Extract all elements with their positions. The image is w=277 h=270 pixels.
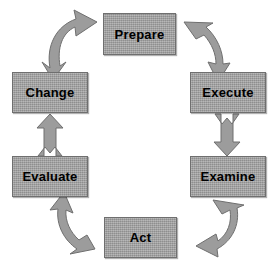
node-prepare-label: Prepare [115, 28, 165, 41]
node-act[interactable]: Act [104, 217, 177, 258]
arrow-down-icon [214, 114, 240, 156]
node-execute-label: Execute [202, 86, 253, 99]
connector-change-to-prepare [42, 10, 97, 80]
curved-arrow-up-left-icon [50, 192, 95, 254]
node-examine[interactable]: Examine [190, 156, 266, 197]
connector-act-to-evaluate [50, 192, 95, 254]
node-examine-label: Examine [201, 170, 256, 183]
curved-arrow-down-left-icon [196, 200, 244, 257]
arrow-up-icon [37, 114, 63, 156]
process-cycle-diagram: Prepare Execute Examine Act Evaluate Cha… [0, 0, 277, 270]
connector-examine-to-act [196, 200, 244, 257]
node-change-label: Change [26, 86, 75, 99]
node-evaluate-label: Evaluate [22, 170, 77, 183]
node-act-label: Act [130, 231, 152, 244]
node-prepare[interactable]: Prepare [103, 13, 176, 55]
node-change[interactable]: Change [12, 72, 88, 113]
curved-arrow-up-right-icon [42, 10, 97, 80]
connector-execute-to-examine [214, 114, 240, 156]
node-evaluate[interactable]: Evaluate [12, 156, 88, 197]
connector-evaluate-to-change [37, 114, 63, 156]
node-execute[interactable]: Execute [190, 72, 266, 113]
